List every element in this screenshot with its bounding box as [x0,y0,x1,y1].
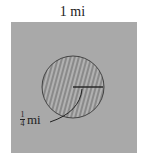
radius-label: 1 4 mi [20,111,41,128]
radius-unit: mi [27,112,41,128]
diagram-canvas [0,0,145,161]
fraction-denominator: 4 [21,120,25,128]
fraction: 1 4 [20,111,25,128]
fraction-numerator: 1 [21,111,25,119]
